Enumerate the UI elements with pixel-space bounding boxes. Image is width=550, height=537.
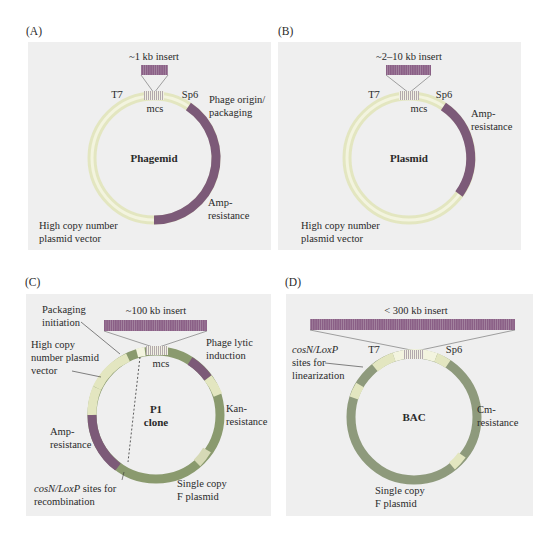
cos-label: cosN/LoxP (292, 344, 339, 355)
sp6-label: Sp6 (446, 344, 462, 355)
cm-resistance-label-2: resistance (477, 417, 519, 428)
vector-label-3: vector (31, 365, 58, 376)
mcs-label: mcs (153, 358, 170, 369)
cos-label-rest: sites for (80, 483, 117, 494)
vector-label-2: plasmid vector (39, 233, 102, 244)
cos-label: cosN/LoxP sites for (34, 483, 117, 494)
vector-title: P1 (150, 403, 162, 415)
mcs-site (146, 346, 168, 355)
insert-label: ~2–10 kb insert (376, 51, 442, 62)
phage-lytic-label-2: induction (206, 350, 246, 361)
mcs-label: mcs (147, 103, 164, 114)
packaging-label: Packaging (42, 304, 86, 315)
kan-resistance-label-2: resistance (226, 416, 268, 427)
panel-d: (D) < 300 kb insert cosN/LoxP sites for … (285, 276, 533, 516)
amp-resistance-label-2: resistance (50, 439, 92, 450)
phage-origin-label-2: packaging (209, 107, 253, 118)
t7-label: T7 (368, 344, 380, 355)
kan-resistance-label: Kan- (226, 403, 247, 414)
sp6-label: Sp6 (182, 89, 198, 100)
mcs-label: mcs (411, 103, 428, 114)
f-plasmid-label-2: F plasmid (177, 491, 219, 502)
packaging-label-2: initiation (42, 317, 81, 328)
insert-block (310, 319, 515, 330)
f-plasmid-label: Single copy (177, 478, 228, 489)
insert-label: < 300 kb insert (384, 305, 447, 316)
vector-label-2: number plasmid (31, 352, 100, 363)
mcs-site (144, 91, 164, 100)
phage-origin-label: Phage origin/ (209, 94, 265, 105)
vector-label: High copy (31, 339, 76, 350)
cos-label-2: recombination (34, 496, 95, 507)
panel-c: (C) ~100 kb insert Packaging initiation … (25, 276, 271, 516)
insert-label: ~100 kb insert (126, 305, 187, 316)
insert-block (104, 320, 207, 331)
panel-b: (B) ~2–10 kb insert T7 Sp6 mcs Amp- resi… (278, 25, 521, 250)
vector-label: High copy number (39, 220, 118, 231)
vector-title: BAC (402, 411, 425, 423)
amp-resistance-label: Amp- (471, 108, 496, 119)
vector-title-2: clone (144, 416, 169, 428)
panel-letter: (B) (278, 25, 294, 38)
vector-title: Plasmid (390, 152, 428, 164)
sp6-label: Sp6 (436, 89, 452, 100)
vector-label-2: plasmid vector (301, 233, 364, 244)
cos-label-3: linearization (292, 370, 345, 381)
amp-resistance-label: Amp- (50, 426, 75, 437)
panel-letter: (D) (285, 276, 301, 289)
panel-a: (A) ~1 kb insert T7 Sp6 mcs Phage origin… (26, 25, 271, 250)
vector-title: Phagemid (130, 152, 177, 164)
insert-block (386, 65, 431, 75)
amp-resistance-label-2: resistance (208, 210, 250, 221)
amp-resistance-label-2: resistance (471, 121, 513, 132)
mcs-site (399, 91, 419, 100)
insert-label: ~1 kb insert (129, 51, 179, 62)
t7-label: T7 (111, 89, 123, 100)
f-plasmid-label: Single copy (375, 485, 426, 496)
cm-resistance-label: Cm- (477, 404, 496, 415)
vector-comparison-diagram: (A) ~1 kb insert T7 Sp6 mcs Phage origin… (0, 0, 550, 537)
cos-label-italic: cosN/LoxP (34, 483, 81, 494)
vector-label: High copy number (301, 220, 380, 231)
insert-block (141, 65, 168, 75)
f-plasmid-label-2: F plasmid (375, 498, 417, 509)
phage-lytic-label: Phage lytic (206, 337, 253, 348)
mcs-site (404, 350, 424, 359)
panel-letter: (C) (25, 276, 41, 289)
amp-resistance-label: Amp- (208, 197, 233, 208)
t7-label: T7 (368, 89, 380, 100)
panel-letter: (A) (26, 25, 42, 38)
cos-label-2: sites for (292, 357, 326, 368)
